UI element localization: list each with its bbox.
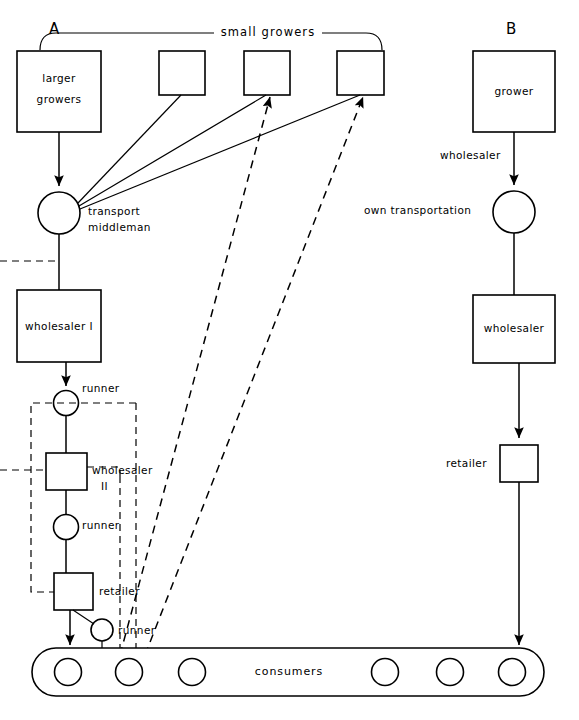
node-runner-2 xyxy=(54,515,79,540)
diagram-graphics xyxy=(0,0,579,720)
consumer-circle-3 xyxy=(179,659,206,686)
small-growers-label: small growers xyxy=(221,25,316,39)
larger-growers-label-line1: larger xyxy=(42,72,75,85)
runner-1-label: runner xyxy=(82,382,119,395)
diagram-canvas: A B small growers larger growers transpo… xyxy=(0,0,579,720)
panel-b-letter: B xyxy=(506,20,517,39)
consumers-label: consumers xyxy=(255,665,323,679)
node-small-grower-1 xyxy=(159,51,205,95)
node-transport-middleman xyxy=(38,192,80,234)
consumer-circle-2 xyxy=(116,659,143,686)
node-small-grower-2 xyxy=(244,51,290,95)
transport-middleman-label-line2: middleman xyxy=(88,221,151,234)
runner-2-label: runner xyxy=(82,519,119,532)
consumer-circle-4 xyxy=(372,659,399,686)
grower-b-label: grower xyxy=(495,85,534,98)
node-runner-3 xyxy=(91,619,113,641)
node-retailer-a xyxy=(54,573,93,610)
wholesaler-b-label: wholesaler xyxy=(484,322,545,335)
panel-a-letter: A xyxy=(49,20,60,39)
small-growers-bracket xyxy=(40,33,382,50)
node-wholesaler-ii xyxy=(46,453,87,490)
node-own-transportation xyxy=(493,191,535,233)
edge-retailer-to-runner-3 xyxy=(73,610,94,624)
retailer-a-label: retailer xyxy=(99,585,140,598)
transport-middleman-label-line1: transport xyxy=(88,205,140,218)
own-transportation-label: own transportation xyxy=(364,204,471,217)
edge-small-grower-2-to-middleman xyxy=(79,95,266,206)
runner-3-label: runner xyxy=(118,624,155,637)
edge-small-grower-3-to-middleman xyxy=(80,95,360,209)
consumer-circle-1 xyxy=(55,659,82,686)
wholesaler-i-label: wholesaler I xyxy=(25,320,93,333)
wholesaler-ii-label-line2: II xyxy=(101,480,108,493)
node-retailer-b xyxy=(500,445,538,482)
edge-dashed-consumers-to-small-grower-3 xyxy=(145,97,363,655)
edge-dashed-consumers-to-small-grower-2 xyxy=(120,97,270,655)
node-larger-growers xyxy=(17,51,101,132)
consumer-circle-5 xyxy=(437,659,464,686)
node-small-grower-3 xyxy=(337,51,384,95)
wholesaler-edge-b-label: wholesaler xyxy=(440,149,501,162)
wholesaler-ii-label-line1: wholesaler xyxy=(92,464,153,477)
larger-growers-label-line2: growers xyxy=(37,93,82,106)
retailer-b-label: retailer xyxy=(446,457,487,470)
consumer-circle-6 xyxy=(499,659,526,686)
